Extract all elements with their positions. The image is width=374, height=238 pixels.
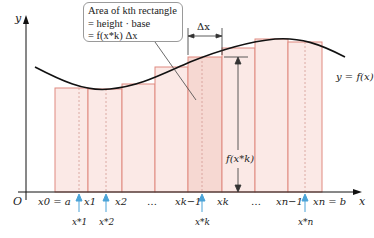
- delta-x-label: Δx: [197, 21, 210, 32]
- rectangle-3: [122, 84, 155, 192]
- origin-label: O: [13, 195, 22, 208]
- riemann-sum-diagram: y x O y = f(x) Δx f(x*k) x0 = a x1 x2 … …: [0, 0, 374, 238]
- sample-x2-star: x*2: [99, 217, 115, 227]
- tick-xk: xk: [217, 196, 229, 207]
- sample-x1-star: x*1: [72, 217, 87, 227]
- tick-ellipsis-1: …: [147, 196, 157, 207]
- delta-x-dimension: [188, 28, 222, 55]
- height-label: f(x*k): [225, 153, 254, 164]
- callout-line-2: = height · base: [88, 18, 178, 31]
- tick-x1: x1: [84, 196, 96, 207]
- rectangle-n: [288, 42, 322, 192]
- rectangle-6: [222, 48, 255, 192]
- rectangle-7: [255, 39, 288, 192]
- sample-xk-star: x*k: [195, 217, 210, 227]
- rectangle-k-highlighted: [188, 57, 222, 192]
- tick-xk-minus-1: xk−1: [175, 196, 201, 207]
- tick-x0-a: x0 = a: [38, 196, 71, 207]
- curve-label: y = f(x): [335, 71, 374, 82]
- sample-xn-star: x*n: [298, 217, 314, 227]
- y-axis-arrow-icon: [23, 15, 29, 24]
- rectangle-4: [155, 67, 188, 192]
- x-axis-label: x: [359, 195, 366, 208]
- callout-line-1: Area of kth rectangle: [88, 5, 178, 18]
- rectangle-1: [55, 88, 88, 192]
- y-axis-label: y: [14, 12, 22, 25]
- tick-xn-minus-1: xn−1: [276, 196, 303, 207]
- tick-xn-b: xn = b: [313, 196, 346, 207]
- rectangle-2: [88, 89, 122, 192]
- tick-x2: x2: [115, 196, 127, 207]
- tick-ellipsis-2: …: [251, 196, 261, 207]
- area-callout-box: Area of kth rectangle = height · base = …: [83, 2, 183, 42]
- callout-line-3: = f(x*k) Δx: [88, 30, 178, 43]
